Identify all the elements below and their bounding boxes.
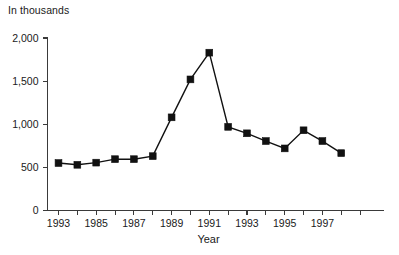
data-point-marker [244,130,251,137]
data-point-marker [168,114,175,121]
line-chart-figure: In thousands 05001,0001,5002,000 1993198… [0,0,399,255]
x-axis-title: Year [0,233,399,245]
x-tick-label: 1993 [235,217,259,229]
data-point-marker [112,156,119,163]
y-tick-label: 1,000 [12,118,38,130]
y-axis-tick-labels: 05001,0001,5002,000 [12,32,38,217]
data-point-marker [281,145,288,152]
x-tick-label: 1987 [122,217,146,229]
y-axis: 05001,0001,5002,000 [12,32,47,217]
x-axis-tick-labels: 19931985198719891991199319951997 [47,217,334,229]
x-tick-label: 1989 [160,217,184,229]
x-tick-label: 1991 [198,217,222,229]
data-point-marker [149,153,156,160]
data-point-marker [131,156,138,163]
x-tick-label: 1993 [47,217,71,229]
data-point-marker [206,49,213,56]
chart-plot-area: 05001,0001,5002,000 19931985198719891991… [0,0,399,255]
data-series [55,49,345,168]
data-point-marker [225,123,232,130]
series-line-path [59,53,342,165]
y-tick-label: 0 [33,204,39,216]
data-point-marker [74,161,81,168]
data-point-marker [93,159,100,166]
data-point-marker [262,138,269,145]
data-point-marker [55,160,62,167]
y-tick-label: 1,500 [12,75,38,87]
x-tick-label: 1985 [85,217,109,229]
x-tick-label: 1995 [273,217,297,229]
data-point-marker [338,150,345,157]
data-point-marker [300,127,307,134]
y-tick-label: 500 [21,161,39,173]
data-point-marker [319,138,326,145]
y-tick-label: 2,000 [12,32,38,44]
x-axis-title-text: Year [179,233,219,245]
y-axis-ticks [43,38,48,211]
x-axis-ticks [59,211,361,216]
data-point-marker [187,76,194,83]
x-axis: 19931985198719891991199319951997 [47,211,384,229]
x-tick-label: 1997 [311,217,335,229]
